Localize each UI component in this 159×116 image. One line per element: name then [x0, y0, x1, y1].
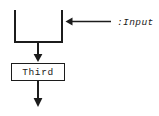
diagram-canvas: :Input Third: [0, 0, 159, 116]
input-edge-label: :Input: [117, 17, 154, 28]
third-activity-node[interactable]: Third: [12, 64, 65, 81]
join-to-third-arrowhead-icon: [34, 54, 43, 62]
third-outgoing-arrowhead-icon: [34, 98, 43, 107]
join-to-third-edge[interactable]: [34, 42, 43, 63]
third-outgoing-edge[interactable]: [34, 81, 43, 107]
input-edge-arrowhead-icon: [66, 18, 73, 26]
diagram-svg: :Input Third: [0, 0, 159, 116]
merge-join-bracket[interactable]: [15, 10, 62, 42]
input-edge[interactable]: [66, 18, 112, 26]
third-activity-label: Third: [22, 67, 54, 78]
join-bracket-path: [15, 10, 62, 42]
